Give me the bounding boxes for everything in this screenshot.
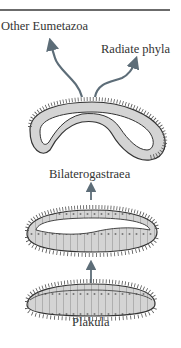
plakula-organism xyxy=(27,281,155,319)
bilaterogastraea-organism xyxy=(30,99,165,160)
branch-arrow-other-eumetazoa xyxy=(51,44,82,97)
intermediate-organism xyxy=(27,207,157,255)
branch-arrow-radiate-phyla xyxy=(95,62,135,97)
phylogeny-diagram xyxy=(0,0,181,348)
